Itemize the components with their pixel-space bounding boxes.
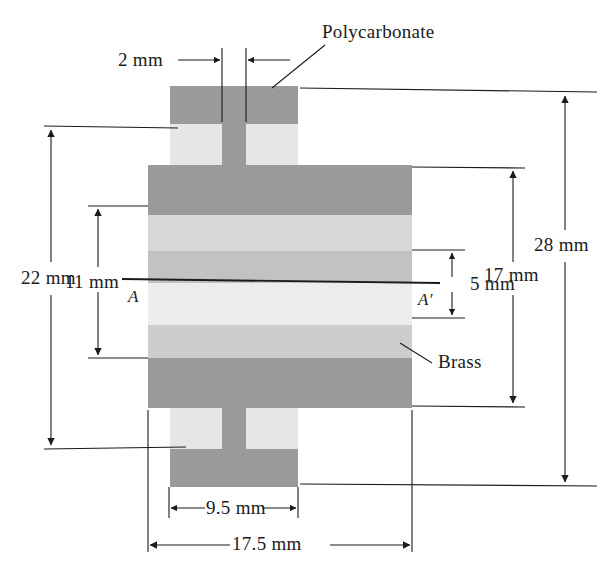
bottom-tab-group — [170, 408, 298, 487]
section-label-a-prime: A′ — [418, 291, 433, 308]
band-5-polycarbonate — [148, 358, 412, 408]
ext-22mm-bottom — [44, 447, 186, 449]
band-1-brass — [148, 215, 412, 251]
band-3-brass — [148, 283, 412, 325]
band-0-polycarbonate — [148, 165, 412, 215]
ext-28mm-bottom — [300, 484, 597, 486]
bottom-tab-notch-right — [246, 408, 298, 449]
band-4-brass — [148, 325, 412, 358]
dimension-label-28mm: 28 mm — [534, 235, 589, 254]
figure-container: Polycarbonate Brass 2 mm 22 mm 11 mm 5 m… — [0, 0, 610, 573]
top-tab-notch-right — [246, 124, 298, 165]
dimension-label-2mm: 2 mm — [118, 50, 163, 69]
polycarbonate-label: Polycarbonate — [322, 22, 435, 41]
bottom-tab-notch-left — [170, 408, 222, 449]
ext-28mm-top — [300, 88, 597, 92]
top-tab-group — [170, 86, 298, 165]
dimension-label-9_5mm: 9.5 mm — [206, 498, 266, 517]
main-block-group — [148, 165, 412, 408]
polycarbonate-leader-line — [272, 45, 325, 88]
bottom-tab-center-strip — [222, 408, 246, 487]
top-tab-center-strip — [222, 86, 246, 165]
dimension-label-17mm: 17 mm — [484, 265, 539, 284]
ext-17mm-top — [412, 167, 525, 168]
brass-label: Brass — [438, 352, 482, 371]
band-2-brass — [148, 251, 412, 283]
dimension-label-17_5mm: 17.5 mm — [232, 534, 302, 553]
section-label-a: A — [128, 288, 139, 305]
ext-22mm-top — [44, 126, 178, 128]
top-tab-notch-left — [170, 124, 222, 165]
dimension-label-11mm: 11 mm — [65, 272, 119, 291]
ext-17mm-bottom — [412, 406, 525, 407]
